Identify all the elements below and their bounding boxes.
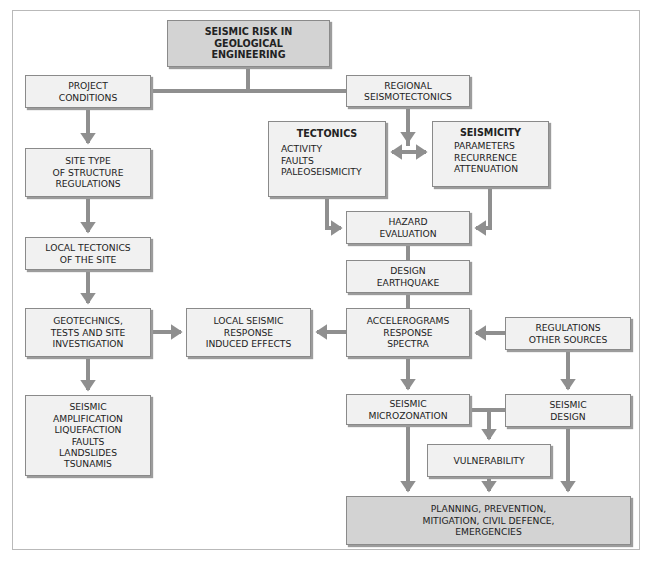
node-geotechnics: GEOTECHNICS, TESTS AND SITE INVESTIGATIO… bbox=[25, 308, 151, 357]
node-text: REGULATIONS bbox=[535, 322, 600, 333]
node-seismicity: SEISMICITY PARAMETERS RECURRENCE ATTENUA… bbox=[432, 121, 549, 187]
node-heading: TECTONICS bbox=[297, 128, 358, 139]
node-hazard-evaluation: HAZARD EVALUATION bbox=[346, 211, 470, 244]
node-heading: SEISMICITY bbox=[460, 127, 521, 138]
node-text: RECURRENCE bbox=[433, 152, 517, 163]
node-site-type: SITE TYPE OF STRUCTURE REGULATIONS bbox=[25, 148, 151, 197]
node-text: TESTS AND SITE bbox=[51, 327, 126, 338]
node-text: EMERGENCIES bbox=[455, 526, 521, 537]
node-text: LANDSLIDES bbox=[59, 447, 117, 458]
node-text: SPECTRA bbox=[387, 338, 429, 349]
node-text: REGULATIONS bbox=[55, 178, 120, 189]
node-text: PALEOSEISMICITY bbox=[269, 166, 362, 177]
arrow-seismicity-to-hazard bbox=[476, 187, 490, 228]
node-text: TSUNAMIS bbox=[64, 458, 112, 469]
node-text: CONDITIONS bbox=[59, 92, 118, 103]
node-text: LIQUEFACTION bbox=[55, 424, 122, 435]
node-text: OF STRUCTURE bbox=[53, 167, 124, 178]
node-text: ACTIVITY bbox=[269, 143, 322, 154]
node-seismic-microzonation: SEISMIC MICROZONATION bbox=[346, 394, 470, 425]
node-seismic-risk-root: SEISMIC RISK IN GEOLOGICAL ENGINEERING bbox=[167, 20, 330, 67]
node-text: DESIGN bbox=[550, 411, 585, 422]
node-regional-seismotectonics: REGIONAL SEISMOTECTONICS bbox=[346, 75, 470, 107]
node-tectonics: TECTONICS ACTIVITY FAULTS PALEOSEISMICIT… bbox=[268, 121, 386, 197]
node-text: FAULTS bbox=[72, 436, 105, 447]
node-text: GEOLOGICAL bbox=[214, 38, 283, 49]
node-text: PARAMETERS bbox=[433, 140, 515, 151]
node-regulations-other-sources: REGULATIONS OTHER SOURCES bbox=[505, 317, 631, 350]
node-local-tectonics: LOCAL TECTONICS OF THE SITE bbox=[25, 237, 151, 270]
node-text: SEISMIC bbox=[389, 398, 426, 409]
node-text: RESPONSE bbox=[224, 327, 273, 338]
node-accelerograms: ACCELEROGRAMS RESPONSE SPECTRA bbox=[346, 308, 470, 357]
node-text: PLANNING, PREVENTION, bbox=[431, 503, 546, 514]
node-project-conditions: PROJECT CONDITIONS bbox=[25, 75, 151, 108]
node-text: HAZARD bbox=[388, 216, 427, 227]
node-text: LOCAL TECTONICS bbox=[45, 242, 130, 253]
node-local-seismic-response: LOCAL SEISMIC RESPONSE INDUCED EFFECTS bbox=[186, 308, 311, 357]
node-text: SEISMOTECTONICS bbox=[364, 91, 452, 102]
node-seismic-design: SEISMIC DESIGN bbox=[505, 394, 631, 427]
node-text: EVALUATION bbox=[379, 228, 436, 239]
node-text: GEOTECHNICS, bbox=[53, 315, 123, 326]
node-text: LOCAL SEISMIC bbox=[214, 315, 284, 326]
node-text: RESPONSE bbox=[383, 327, 432, 338]
node-text: INDUCED EFFECTS bbox=[206, 338, 292, 349]
node-text: SITE TYPE bbox=[65, 155, 110, 166]
node-text: OF THE SITE bbox=[60, 254, 117, 265]
node-text: ATTENUATION bbox=[433, 163, 518, 174]
node-vulnerability: VULNERABILITY bbox=[427, 444, 551, 477]
node-text: SEISMIC bbox=[549, 399, 586, 410]
node-text: SEISMIC RISK IN bbox=[205, 26, 293, 37]
node-text: MITIGATION, CIVIL DEFENCE, bbox=[422, 515, 554, 526]
node-text: DESIGN bbox=[390, 265, 425, 276]
node-text: VULNERABILITY bbox=[453, 455, 524, 466]
node-seismic-effects: SEISMIC AMPLIFICATION LIQUEFACTION FAULT… bbox=[25, 395, 151, 476]
node-text: AMPLIFICATION bbox=[53, 413, 123, 424]
node-text: REGIONAL bbox=[384, 80, 432, 91]
node-text: EARTHQUAKE bbox=[377, 277, 439, 288]
arrow-tectonics-to-hazard bbox=[327, 197, 341, 228]
node-text: OTHER SOURCES bbox=[529, 334, 608, 345]
node-text: MICROZONATION bbox=[368, 410, 447, 421]
node-text: FAULTS bbox=[269, 155, 314, 166]
node-text: PROJECT bbox=[68, 80, 108, 91]
node-text: ENGINEERING bbox=[211, 49, 285, 60]
node-text: INVESTIGATION bbox=[53, 338, 124, 349]
node-text: SEISMIC bbox=[69, 401, 106, 412]
node-planning: PLANNING, PREVENTION, MITIGATION, CIVIL … bbox=[346, 496, 631, 545]
node-design-earthquake: DESIGN EARTHQUAKE bbox=[346, 260, 470, 293]
node-text: ACCELEROGRAMS bbox=[367, 315, 449, 326]
